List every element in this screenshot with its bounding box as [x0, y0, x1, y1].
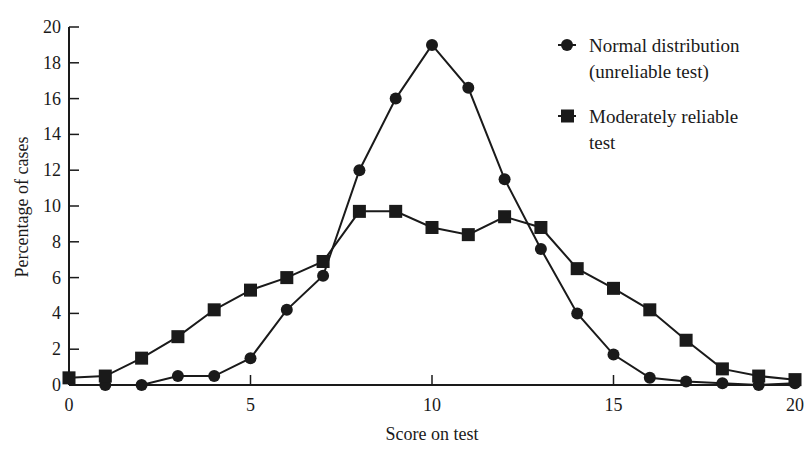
circle-marker	[680, 375, 692, 387]
square-marker	[534, 221, 547, 234]
square-marker	[353, 205, 366, 218]
circle-marker	[317, 270, 329, 282]
y-tick-label: 12	[43, 160, 61, 180]
square-marker	[571, 262, 584, 275]
x-tick-label: 20	[786, 395, 804, 415]
y-tick-label: 0	[52, 375, 61, 395]
circle-marker	[281, 304, 293, 316]
y-tick-label: 14	[43, 124, 61, 144]
square-marker	[171, 330, 184, 343]
circle-marker	[571, 307, 583, 319]
y-tick-label: 20	[43, 17, 61, 37]
legend-item: Moderately reliabletest	[558, 106, 738, 153]
series-normal-distribution	[99, 39, 801, 391]
legend-item: Normal distribution(unreliable test)	[558, 35, 740, 83]
square-marker	[389, 205, 402, 218]
x-tick-label: 5	[246, 395, 255, 415]
x-tick-label: 15	[605, 395, 623, 415]
legend-label: (unreliable test)	[589, 61, 709, 83]
square-marker	[752, 370, 765, 383]
x-tick-label: 0	[65, 395, 74, 415]
square-marker	[63, 371, 76, 384]
series-line	[69, 211, 795, 379]
square-marker	[643, 303, 656, 316]
x-axis-title: Score on test	[386, 424, 479, 444]
y-tick-label: 6	[52, 268, 61, 288]
square-marker	[789, 373, 802, 386]
y-tick-label: 16	[43, 89, 61, 109]
square-marker	[280, 271, 293, 284]
circle-marker	[172, 370, 184, 382]
legend: Normal distribution(unreliable test)Mode…	[558, 35, 740, 153]
y-tick-label: 4	[52, 303, 61, 323]
circle-marker	[136, 379, 148, 391]
circle-marker	[353, 164, 365, 176]
y-tick-label: 18	[43, 53, 61, 73]
square-marker	[498, 210, 511, 223]
legend-label: Moderately reliable	[589, 106, 738, 127]
square-marker	[426, 221, 439, 234]
circle-marker	[462, 82, 474, 94]
series-moderately-reliable	[63, 205, 802, 386]
square-marker	[244, 284, 257, 297]
x-tick-label: 10	[423, 395, 441, 415]
line-chart: 0246810121416182005101520 Normal distrib…	[0, 0, 811, 450]
legend-square-icon	[561, 110, 574, 123]
circle-marker	[499, 173, 511, 185]
legend-circle-icon	[561, 39, 573, 51]
circle-marker	[390, 93, 402, 105]
circle-marker	[608, 349, 620, 361]
y-tick-label: 2	[52, 339, 61, 359]
circle-marker	[535, 243, 547, 255]
square-marker	[716, 362, 729, 375]
y-tick-label: 10	[43, 196, 61, 216]
legend-label: test	[589, 132, 616, 153]
circle-marker	[716, 377, 728, 389]
circle-marker	[426, 39, 438, 51]
square-marker	[99, 370, 112, 383]
square-marker	[317, 255, 330, 268]
square-marker	[135, 352, 148, 365]
circle-marker	[644, 372, 656, 384]
circle-marker	[245, 352, 257, 364]
y-tick-label: 8	[52, 232, 61, 252]
circle-marker	[208, 370, 220, 382]
y-axis-title: Percentage of cases	[12, 137, 32, 278]
square-marker	[208, 303, 221, 316]
series-group	[63, 39, 802, 391]
square-marker	[462, 228, 475, 241]
square-marker	[607, 282, 620, 295]
legend-label: Normal distribution	[589, 35, 740, 56]
square-marker	[680, 334, 693, 347]
